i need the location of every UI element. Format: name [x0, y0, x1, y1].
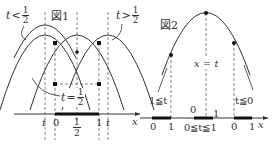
- label-t-eq-half: t = 1 2: [60, 88, 85, 107]
- tick-t-left: t: [42, 117, 46, 128]
- figure2-title: 図2: [160, 16, 178, 32]
- tick-t-right: t: [106, 117, 110, 128]
- case-2-label: 0≦t≦1: [184, 122, 217, 133]
- text-layer: 図1 t < 1 2 t > 1 2 t = 1 2 t 0 1 t x 1 2…: [0, 0, 276, 147]
- case-1-tick-0: 0: [150, 121, 156, 132]
- case-3-label: t≦0: [235, 95, 253, 106]
- label-t-gt-half: t > 1 2: [116, 6, 139, 25]
- case-1-tick-1: 1: [168, 121, 174, 132]
- label-t-lt-half: t < 1 2: [6, 6, 29, 25]
- axis-of-symmetry-label: x = t: [194, 58, 218, 69]
- tick-half: 1 2: [73, 117, 81, 138]
- case-2-tick-1: 1: [213, 108, 219, 119]
- case-2-tick-0: 0: [190, 104, 196, 115]
- tick-1: 1: [96, 117, 102, 128]
- tick-0: 0: [53, 117, 59, 128]
- case-3-tick-0: 0: [231, 121, 237, 132]
- case-1-label: 1≦t: [149, 95, 167, 106]
- x-label-2: x: [258, 119, 264, 130]
- x-label-1: x: [132, 116, 138, 127]
- case-3-tick-1: 1: [249, 121, 255, 132]
- figure1-title: 図1: [51, 7, 69, 23]
